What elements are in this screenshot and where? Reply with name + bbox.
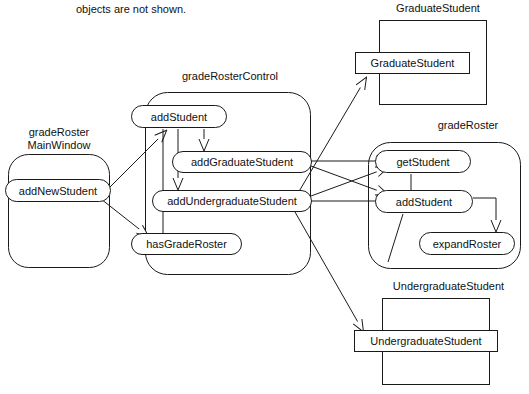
diagram-canvas: objects are not shown. gradeRoster MainW…: [0, 0, 529, 394]
operation-label: hasGradeRoster: [146, 238, 227, 250]
msg-addgraduatestudent-to-addstudent: [311, 166, 387, 194]
operation-grade-roster-add-student[interactable]: addStudent: [375, 190, 473, 213]
operation-label: addNewStudent: [19, 185, 97, 197]
msg-addnewstudent-to-addstudent: [101, 131, 166, 196]
operation-label: expandRoster: [433, 238, 502, 250]
link-addstudent-tail: [388, 214, 403, 262]
msg-addundergraduatestudent-to-undergraduatestudent: [295, 212, 363, 331]
msg-addundergraduatestudent-to-getstudent: [311, 168, 387, 196]
msg-addgraduatestudent-to-graduatestudent: [291, 78, 366, 205]
class-label: UndergraduateStudent: [370, 335, 481, 347]
class-graduate-student[interactable]: GraduateStudent: [355, 52, 470, 74]
operation-get-student[interactable]: getStudent: [375, 150, 471, 173]
operation-control-add-student[interactable]: addStudent: [131, 105, 227, 128]
package-outline-main-window: [9, 155, 110, 268]
operation-add-graduate-student[interactable]: addGraduateStudent: [172, 151, 312, 173]
operation-has-grade-roster[interactable]: hasGradeRoster: [131, 233, 242, 255]
operation-label: addStudent: [151, 111, 207, 123]
package-label-control: gradeRosterControl: [160, 70, 300, 83]
diagram-caption: objects are not shown.: [76, 3, 186, 16]
class-undergraduate-student[interactable]: UndergraduateStudent: [354, 330, 498, 352]
operation-add-new-student[interactable]: addNewStudent: [5, 179, 111, 202]
package-label-main-window: gradeRoster MainWindow: [10, 126, 108, 152]
class-label: GraduateStudent: [371, 57, 455, 69]
operation-label: getStudent: [396, 156, 449, 168]
package-label-grade-roster: gradeRoster: [409, 119, 527, 132]
operation-label: addUndergraduateStudent: [167, 195, 297, 207]
operation-label: addGraduateStudent: [191, 156, 293, 168]
operation-label: addStudent: [396, 196, 452, 208]
msg-addnewstudent-to-hasgraderoster: [101, 199, 148, 236]
package-label-undergraduate-student: UndergraduateStudent: [368, 280, 529, 293]
operation-add-undergraduate-student[interactable]: addUndergraduateStudent: [152, 190, 312, 212]
operation-expand-roster[interactable]: expandRoster: [419, 232, 515, 255]
package-label-graduate-student: GraduateStudent: [372, 2, 504, 15]
msg-addstudent-to-expandroster: [473, 198, 496, 231]
